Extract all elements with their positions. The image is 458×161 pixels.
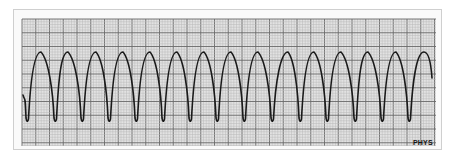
ecg-strip [0, 0, 458, 161]
ecg-grid [22, 19, 436, 146]
strip-label: PHYS [413, 139, 433, 146]
